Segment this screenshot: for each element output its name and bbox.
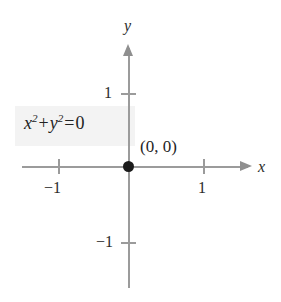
origin-point-label: (0, 0) [140, 138, 177, 155]
x-axis-line [22, 166, 248, 168]
origin-data-point [123, 161, 134, 172]
equation-label: x2+y2=0 [24, 114, 129, 134]
y-axis-arrow-icon [123, 44, 133, 56]
y-axis-tick-pos1 [121, 93, 136, 95]
x-axis-label: x [258, 159, 265, 175]
x-axis-tick-pos1 [203, 159, 205, 174]
equation-plus-operator: + [38, 113, 50, 133]
equation-right-hand-side: 0 [75, 113, 84, 133]
y-axis-tick-label-neg1: −1 [96, 234, 113, 250]
x-axis-arrow-icon [240, 161, 252, 171]
x-axis-tick-label-pos1: 1 [198, 180, 206, 196]
y-axis-label: y [124, 18, 131, 34]
y-axis-tick-neg1 [121, 242, 136, 244]
y-axis-tick-label-pos1: 1 [104, 85, 112, 101]
x-axis-tick-neg1 [58, 159, 60, 174]
equation-exponent-x: 2 [32, 112, 38, 124]
x-axis-tick-label-neg1: −1 [44, 180, 61, 196]
equation-equals-operator: = [63, 113, 75, 133]
equation-var-x: x [24, 113, 32, 133]
equation-var-y: y [50, 113, 58, 133]
graph-figure: −1 1 1 −1 x y x2+y2=0 (0, 0) [0, 0, 281, 302]
